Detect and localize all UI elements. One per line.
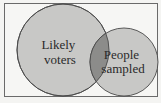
label-people-sampled-line-2: sampled — [101, 61, 145, 76]
venn-diagram: Likely voters People sampled — [0, 0, 161, 103]
label-likely-voters-line-1: Likely — [41, 37, 75, 52]
label-people-sampled-line-1: People — [104, 47, 140, 62]
label-likely-voters-line-2: voters — [44, 52, 76, 67]
label-people-sampled: People sampled — [101, 47, 145, 76]
label-likely-voters: Likely voters — [41, 37, 78, 67]
